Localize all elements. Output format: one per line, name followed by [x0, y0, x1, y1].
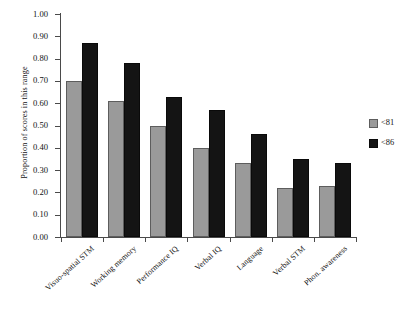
bar-chart-figure: Proportion of scores in this range 1.000…: [0, 0, 414, 316]
bar-0-4: [235, 163, 251, 237]
bar-1-6: [335, 163, 351, 237]
bar-1-0: [82, 43, 98, 237]
bar-0-0: [66, 81, 82, 237]
x-tick-mark: [145, 238, 146, 242]
legend-swatch-0: [369, 119, 378, 128]
y-tick-label: 0.20: [8, 188, 48, 197]
y-tick-label: 0.70: [8, 76, 48, 85]
bar-1-3: [209, 110, 225, 237]
y-tick-label: 0.80: [8, 54, 48, 63]
y-tick-label: 0.60: [8, 99, 48, 108]
chart-legend: <81<86: [369, 116, 414, 156]
bar-1-1: [124, 63, 140, 237]
x-tick-mark: [103, 238, 104, 242]
bar-0-1: [108, 101, 124, 237]
x-tick-mark: [356, 238, 357, 242]
y-tick-label: 0.00: [8, 233, 48, 242]
bar-1-4: [251, 134, 267, 237]
plot-area: [61, 14, 356, 237]
x-axis-label-0: Visuo-spatial STM: [0, 244, 96, 316]
x-tick-mark: [61, 238, 62, 242]
x-tick-mark: [230, 238, 231, 242]
bar-1-2: [166, 97, 182, 237]
y-tick-label: 1.00: [8, 10, 48, 19]
y-tick-label: 0.50: [8, 121, 48, 130]
x-tick-mark: [272, 238, 273, 242]
legend-swatch-1: [369, 139, 378, 148]
y-tick-label: 0.40: [8, 143, 48, 152]
legend-item-1: <86: [369, 136, 414, 151]
x-tick-mark: [314, 238, 315, 242]
bar-0-3: [193, 148, 209, 237]
y-tick-label: 0.30: [8, 166, 48, 175]
legend-label-0: <81: [381, 119, 394, 127]
bar-0-5: [277, 188, 293, 237]
x-tick-mark: [187, 238, 188, 242]
y-tick-label: 0.90: [8, 32, 48, 41]
bar-1-5: [293, 159, 309, 237]
x-axis-line: [60, 237, 357, 238]
legend-label-1: <86: [381, 139, 394, 147]
bar-0-6: [319, 186, 335, 237]
bar-0-2: [150, 126, 166, 238]
y-tick-label: 0.10: [8, 210, 48, 219]
legend-item-0: <81: [369, 116, 414, 131]
